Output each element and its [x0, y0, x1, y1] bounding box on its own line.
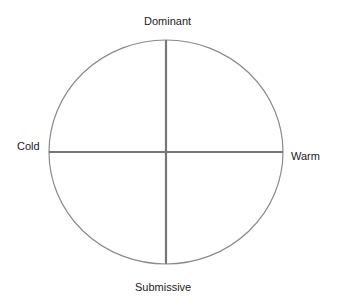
label-cold: Cold	[17, 140, 40, 152]
label-submissive: Submissive	[135, 281, 191, 293]
circumplex-diagram	[0, 0, 338, 306]
label-warm: Warm	[291, 150, 320, 162]
label-dominant: Dominant	[144, 15, 191, 27]
